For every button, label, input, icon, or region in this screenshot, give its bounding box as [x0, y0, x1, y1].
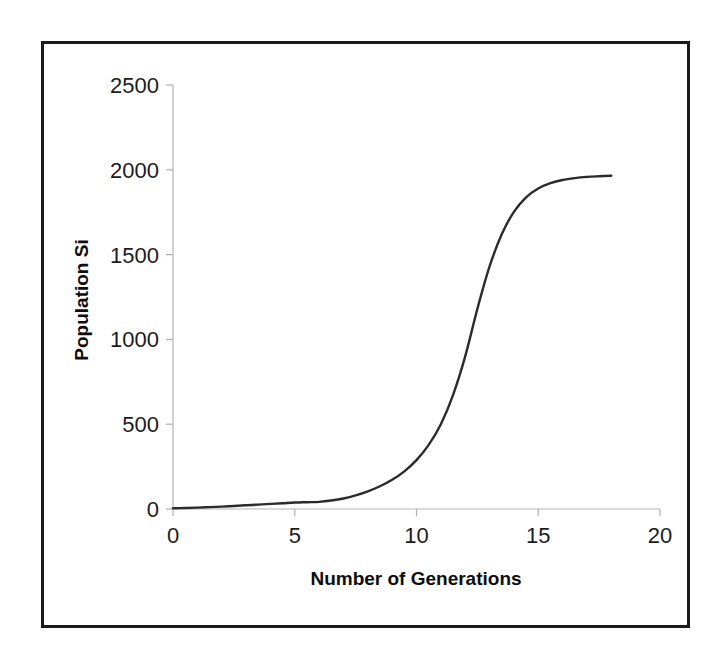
y-axis-tick-labels: 05001000150020002500	[110, 73, 159, 522]
y-axis-ticks	[166, 85, 173, 509]
x-tick-label: 15	[526, 523, 550, 548]
y-tick-label: 1500	[110, 243, 159, 268]
y-tick-label: 2000	[110, 158, 159, 183]
chart-figure: 05001000150020002500 05101520 Number of …	[0, 0, 723, 659]
x-tick-label: 10	[404, 523, 428, 548]
series-line-population-size	[173, 176, 611, 509]
x-axis-title: Number of Generations	[310, 568, 521, 589]
x-tick-label: 0	[167, 523, 179, 548]
y-axis-title: Population Si	[71, 239, 92, 360]
line-chart-plot: 05001000150020002500 05101520 Number of …	[0, 0, 723, 659]
x-tick-label: 20	[648, 523, 672, 548]
x-tick-label: 5	[289, 523, 301, 548]
y-tick-label: 2500	[110, 73, 159, 98]
y-tick-label: 500	[122, 412, 159, 437]
y-tick-label: 1000	[110, 327, 159, 352]
x-axis-tick-labels: 05101520	[167, 523, 672, 548]
data-series-group	[173, 176, 611, 509]
x-axis-ticks	[173, 509, 660, 516]
y-tick-label: 0	[147, 497, 159, 522]
